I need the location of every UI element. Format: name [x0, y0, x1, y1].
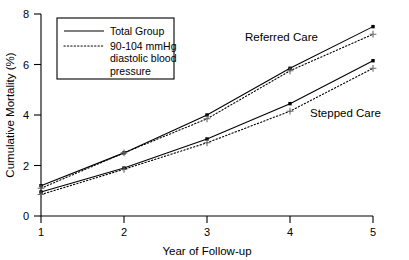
- legend-label-total-group: Total Group: [110, 25, 164, 37]
- line-chart: 0 2 4 6 8 1 2 3 4 5 Cumulative Mortality…: [0, 0, 409, 260]
- data-point-marker: [370, 31, 377, 38]
- data-point-marker: [38, 191, 45, 198]
- x-tick-label-2: 2: [121, 226, 127, 238]
- y-axis-title: Cumulative Mortality (%): [4, 52, 16, 177]
- chart-figure: 0 2 4 6 8 1 2 3 4 5 Cumulative Mortality…: [0, 0, 409, 260]
- y-tick-label-2: 2: [23, 160, 29, 172]
- y-tick-label-4: 4: [23, 109, 29, 121]
- data-point-marker: [287, 67, 294, 74]
- series-line-2: [41, 61, 373, 192]
- data-point-marker: [287, 108, 294, 115]
- x-tick-label-1: 1: [38, 226, 44, 238]
- legend: Total Group 90-104 mmHg diastolic blood …: [57, 18, 177, 79]
- annotation-stepped-care: Stepped Care: [310, 107, 381, 119]
- data-point-marker: [371, 59, 374, 62]
- legend-label-diastolic-blood: diastolic blood: [110, 52, 177, 64]
- x-tick-label-5: 5: [370, 226, 376, 238]
- x-tick-labels: 1 2 3 4 5: [38, 226, 376, 238]
- data-point-marker: [371, 25, 374, 28]
- y-tick-label-6: 6: [23, 59, 29, 71]
- data-point-marker: [370, 65, 377, 72]
- series-line-3: [41, 68, 373, 194]
- y-tick-labels: 0 2 4 6 8: [23, 8, 29, 222]
- legend-label-pressure: pressure: [110, 65, 151, 77]
- x-axis-title: Year of Follow-up: [162, 245, 251, 257]
- annotation-referred-care: Referred Care: [245, 31, 318, 43]
- x-tick-label-4: 4: [287, 226, 293, 238]
- legend-label-mmhg: 90-104 mmHg: [110, 40, 177, 52]
- x-tick-marks: [41, 216, 373, 223]
- y-tick-label-8: 8: [23, 8, 29, 20]
- y-tick-label-0: 0: [23, 210, 29, 222]
- data-point-marker: [121, 149, 128, 156]
- x-tick-label-3: 3: [204, 226, 210, 238]
- data-point-marker: [288, 102, 291, 105]
